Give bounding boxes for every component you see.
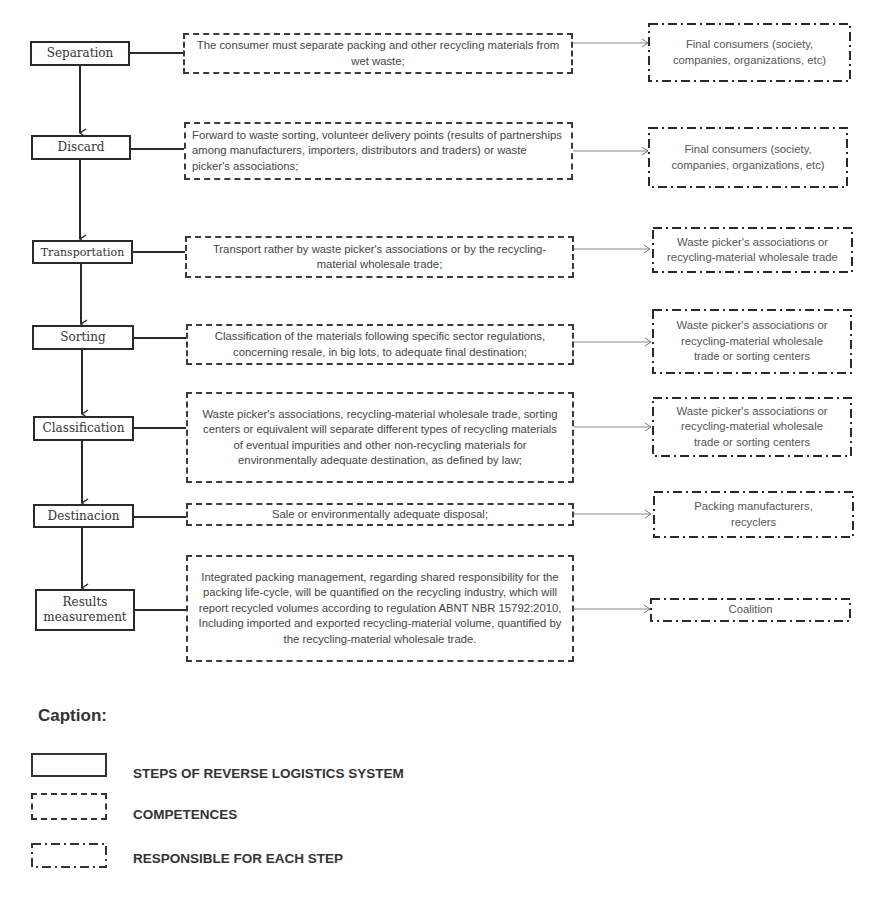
responsible-text: Packing manufacturers, recyclers xyxy=(693,499,814,530)
responsible-text: Coalition xyxy=(729,602,773,618)
legend-label-steps: STEPS OF REVERSE LOGISTICS SYSTEM xyxy=(133,766,404,781)
reverse-logistics-flowchart: Separation Discard Transportation Sortin… xyxy=(0,0,884,902)
step-transportation: Transportation xyxy=(32,240,133,264)
step-label: Destinacion xyxy=(48,509,120,524)
step-classification: Classification xyxy=(33,416,134,441)
responsible-text: Waste picker's associations or recycling… xyxy=(656,235,849,266)
step-discard: Discard xyxy=(31,135,131,160)
step-results-measurement: Results measurement xyxy=(35,589,135,631)
competence-text: Forward to waste sorting, volunteer deli… xyxy=(192,128,565,175)
step-destinacion: Destinacion xyxy=(33,504,134,528)
competence-transportation: Transport rather by waste picker's assoc… xyxy=(185,236,574,278)
responsible-results-measurement: Coalition xyxy=(650,598,851,622)
legend-title: Caption: xyxy=(38,706,107,726)
competence-text: Transport rather by waste picker's assoc… xyxy=(205,242,554,273)
competence-text: Sale or environmentally adequate disposa… xyxy=(272,507,488,523)
competence-destinacion: Sale or environmentally adequate disposa… xyxy=(186,503,574,526)
competence-text: Integrated packing management, regarding… xyxy=(192,570,568,648)
responsible-destinacion: Packing manufacturers, recyclers xyxy=(653,491,854,538)
responsible-text: Final consumers (society, companies, org… xyxy=(656,142,840,173)
step-sorting: Sorting xyxy=(32,325,134,350)
step-label: Sorting xyxy=(60,330,105,345)
competence-results-measurement: Integrated packing management, regarding… xyxy=(186,555,574,662)
legend-label-responsible: RESPONSIBLE FOR EACH STEP xyxy=(133,851,343,866)
responsible-separation: Final consumers (society, companies, org… xyxy=(648,23,851,82)
step-label: Discard xyxy=(58,140,105,155)
legend-swatch-dash-dot xyxy=(31,843,107,868)
responsible-discard: Final consumers (society, companies, org… xyxy=(648,127,848,188)
competence-text: The consumer must separate packing and o… xyxy=(191,38,565,69)
responsible-text: Waste picker's associations or recycling… xyxy=(670,404,834,451)
legend-swatch-solid xyxy=(31,753,107,777)
step-separation: Separation xyxy=(30,41,130,66)
competence-classification: Waste picker's associations, recycling-m… xyxy=(186,392,574,483)
step-label: Separation xyxy=(47,46,114,61)
competence-separation: The consumer must separate packing and o… xyxy=(183,33,573,74)
responsible-sorting: Waste picker's associations or recycling… xyxy=(652,309,852,374)
step-label: Transportation xyxy=(41,245,124,260)
responsible-transportation: Waste picker's associations or recycling… xyxy=(652,227,853,273)
competence-text: Waste picker's associations, recycling-m… xyxy=(198,407,562,469)
legend-label-competences: COMPETENCES xyxy=(133,807,237,822)
competence-text: Classification of the materials followin… xyxy=(194,329,566,360)
responsible-text: Final consumers (society, companies, org… xyxy=(656,37,843,68)
legend-swatch-dashed xyxy=(31,793,107,820)
competence-sorting: Classification of the materials followin… xyxy=(186,324,574,365)
step-label-line1: Results xyxy=(63,595,108,610)
step-label-line2: measurement xyxy=(43,610,126,625)
responsible-text: Waste picker's associations or recycling… xyxy=(670,318,834,365)
responsible-classification: Waste picker's associations or recycling… xyxy=(652,397,852,457)
competence-discard: Forward to waste sorting, volunteer deli… xyxy=(184,122,573,180)
step-label: Classification xyxy=(43,421,125,436)
